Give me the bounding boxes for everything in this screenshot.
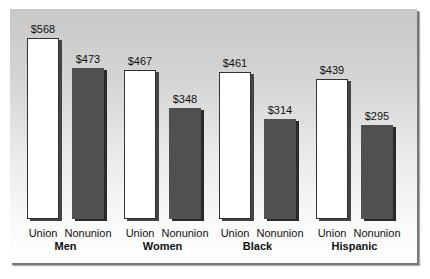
bar-hispanic-nonunion bbox=[361, 125, 393, 219]
group-label-women: Women bbox=[118, 240, 208, 252]
value-label: $348 bbox=[155, 93, 215, 105]
value-label: $568 bbox=[13, 23, 73, 35]
value-label: $467 bbox=[110, 55, 170, 67]
value-label: $439 bbox=[302, 64, 362, 76]
category-label: Nonunion bbox=[250, 227, 310, 239]
bar-black-union bbox=[219, 72, 251, 219]
bar-women-nonunion bbox=[169, 108, 201, 219]
bar-men-union bbox=[27, 38, 59, 219]
value-label: $473 bbox=[58, 53, 118, 65]
bar-hispanic-union bbox=[316, 79, 348, 219]
category-label: Nonunion bbox=[58, 227, 118, 239]
category-label: Nonunion bbox=[347, 227, 407, 239]
bar-black-nonunion bbox=[264, 119, 296, 219]
value-label: $314 bbox=[250, 104, 310, 116]
group-label-hispanic: Hispanic bbox=[310, 240, 400, 252]
group-label-black: Black bbox=[213, 240, 303, 252]
value-label: $461 bbox=[205, 57, 265, 69]
bar-men-nonunion bbox=[72, 68, 104, 219]
group-label-men: Men bbox=[21, 240, 111, 252]
value-label: $295 bbox=[347, 110, 407, 122]
bar-women-union bbox=[124, 70, 156, 219]
